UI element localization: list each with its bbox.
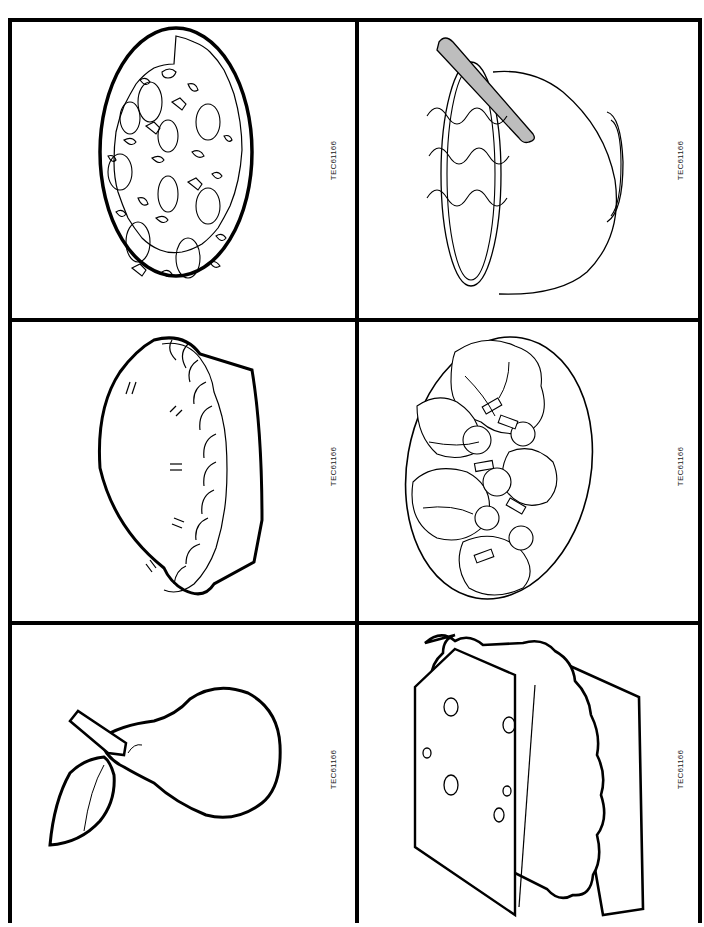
card-sandwich[interactable]: TEC61166 <box>359 625 702 927</box>
sandwich-icon <box>359 625 702 927</box>
pear-icon <box>12 625 355 927</box>
card-sheet: TEC61166 TEC61166 <box>8 18 702 923</box>
card-salad[interactable]: TEC61166 <box>359 322 702 621</box>
card-code-label: TEC61166 <box>329 447 338 486</box>
card-code-label: TEC61166 <box>676 141 685 180</box>
card-pizza[interactable]: TEC61166 <box>12 22 355 318</box>
salad-icon <box>359 322 702 621</box>
card-code-label: TEC61166 <box>676 447 685 486</box>
card-code-label: TEC61166 <box>676 750 685 789</box>
card-pear[interactable]: TEC61166 <box>12 625 355 927</box>
card-pie[interactable]: TEC61166 <box>12 322 355 621</box>
card-code-label: TEC61166 <box>329 750 338 789</box>
card-code-label: TEC61166 <box>329 141 338 180</box>
card-soup-bowl[interactable]: TEC61166 <box>359 22 702 318</box>
page-header-text <box>100 0 300 4</box>
pie-icon <box>12 322 355 621</box>
soup-bowl-icon <box>359 22 702 318</box>
pizza-icon <box>12 22 355 318</box>
